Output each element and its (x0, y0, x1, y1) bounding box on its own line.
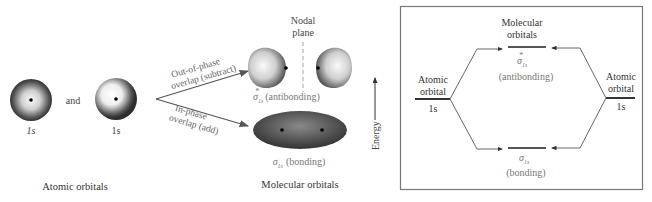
nodal-plane-label-1: Nodal (291, 15, 316, 26)
bonding-mo-label: σ1s(bonding) (273, 156, 326, 169)
molecular-orbitals-caption: Molecular orbitals (261, 179, 338, 190)
antibonding-right-lobe (316, 48, 352, 88)
left-ao-1s: 1s (429, 103, 438, 114)
right-ao-label-1: Atomic (606, 71, 637, 82)
right-ao-1s: 1s (617, 101, 626, 112)
antibonding-mo-label: σ1s*(antibonding) (253, 87, 320, 104)
diagram-antibonding-symbol: σ1s* (517, 51, 528, 68)
antibonding-left-lobe (248, 48, 288, 88)
left-ao-label-2: orbital (420, 86, 446, 97)
atomic-orbitals-caption: Atomic orbitals (42, 181, 108, 192)
nodal-plane-label-2: plane (292, 27, 314, 38)
energy-axis-label: Energy (370, 121, 381, 150)
left-to-bonding-line (450, 99, 502, 149)
atomic-orbital-1 (10, 79, 52, 121)
diagram-bonding-text: (bonding) (506, 167, 545, 179)
right-to-bonding-line (552, 98, 606, 148)
and-label: and (66, 95, 80, 106)
bonding-mo-shape (253, 111, 347, 149)
left-to-antibonding-line (450, 49, 502, 99)
left-ao-label-1: Atomic (418, 74, 449, 85)
mo-title-1: Molecular (501, 17, 543, 28)
diagram-bonding-symbol: σ1s (519, 152, 530, 165)
diagram-antibonding-text: (antibonding) (499, 71, 553, 83)
mo-diagram-canvas: 1s and 1s Atomic orbitals Out-of-phase o… (0, 0, 652, 202)
right-ao-label-2: orbital (608, 83, 634, 94)
right-to-antibonding-line (552, 48, 606, 98)
ao2-label: 1s (112, 125, 121, 136)
atomic-orbital-2 (95, 78, 137, 120)
mo-title-2: orbitals (507, 29, 537, 40)
ao1-label: 1s (27, 125, 36, 136)
